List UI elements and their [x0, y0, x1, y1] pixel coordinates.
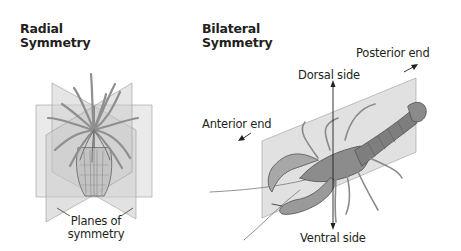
dorsal-side-label: Dorsal side [298, 69, 360, 82]
sagittal-plane [262, 78, 416, 218]
anterior-end-label: Anterior end [202, 118, 271, 131]
planes-label-line2: symmetry [58, 228, 134, 241]
anterior-arrow [238, 133, 251, 141]
posterior-end-label: Posterior end [356, 47, 430, 60]
posterior-arrow [404, 64, 418, 72]
planes-of-symmetry-label: Planes of symmetry [58, 215, 134, 241]
ventral-side-label: Ventral side [300, 232, 366, 245]
